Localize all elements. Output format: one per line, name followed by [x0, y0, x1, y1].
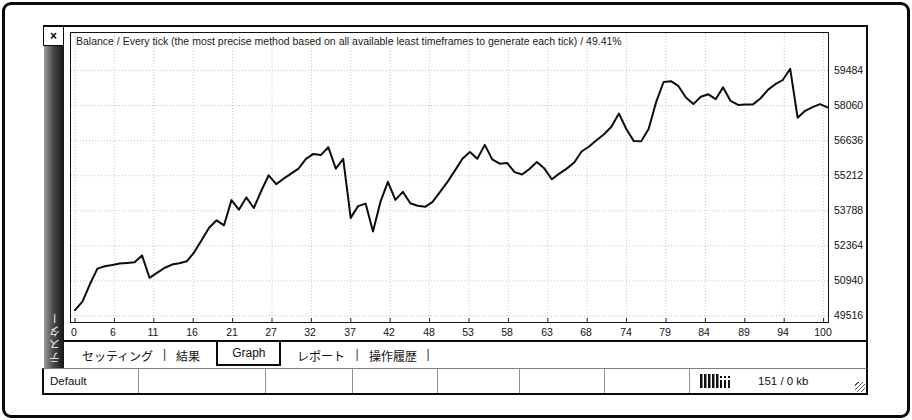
x-tick-label: 11: [148, 326, 159, 338]
chart-title: Balance / Every tick (the most precise m…: [76, 35, 622, 47]
resize-grip[interactable]: [855, 382, 865, 392]
tester-sidebar-label: テスター: [47, 311, 63, 363]
x-tick-label: 37: [344, 326, 356, 338]
tab-graph[interactable]: Graph: [216, 342, 281, 366]
y-axis-labels: 5948458060566365521253788523645094049516: [834, 32, 876, 323]
status-spacer: [809, 369, 855, 393]
y-tick-label: 52364: [834, 239, 863, 251]
x-tick-label: 68: [580, 326, 592, 338]
chart-panel: Balance / Every tick (the most precise m…: [70, 32, 829, 323]
x-tick-label: 27: [265, 326, 277, 338]
window-top-border: [43, 25, 868, 27]
x-tick-label: 79: [659, 326, 671, 338]
status-cell: [520, 369, 605, 393]
status-cell: [353, 369, 438, 393]
status-bar: Default 151 / 0 kb: [42, 368, 868, 395]
x-tick-label: 94: [777, 326, 789, 338]
tab-separator: |: [425, 342, 432, 361]
tab-report[interactable]: レポート: [289, 342, 353, 364]
x-tick-label: 6: [110, 326, 116, 338]
y-tick-label: 59484: [834, 64, 863, 76]
traffic-bars-icon: [700, 374, 732, 388]
x-tick-label: 0: [71, 326, 77, 338]
x-tick-label: 84: [698, 326, 710, 338]
traffic-label: 151 / 0 kb: [758, 375, 809, 387]
x-tick-label: 89: [738, 326, 750, 338]
tab-separator: |: [161, 342, 168, 361]
x-tick-label: 42: [383, 326, 395, 338]
y-tick-label: 53788: [834, 204, 863, 216]
balance-chart-svg: [71, 33, 828, 322]
tab-settings[interactable]: セッティング: [74, 342, 161, 364]
x-tick-label: 21: [226, 326, 238, 338]
tab-separator: |: [353, 342, 360, 361]
close-icon: ×: [50, 30, 57, 42]
status-cell: [605, 369, 690, 393]
x-axis-labels: 061116212732374248535863687479848994100: [70, 326, 829, 339]
status-cell: [266, 369, 353, 393]
x-tick-label: 63: [541, 326, 553, 338]
status-cell: [438, 369, 520, 393]
close-button[interactable]: ×: [43, 26, 64, 46]
status-preset-label: Default: [50, 375, 86, 387]
y-tick-label: 50940: [834, 274, 863, 286]
x-tick-label: 32: [304, 326, 316, 338]
status-cell: [139, 369, 266, 393]
x-tick-label: 53: [462, 326, 474, 338]
x-tick-label: 58: [501, 326, 513, 338]
tester-sidebar-strip: テスター: [44, 46, 64, 368]
y-tick-label: 55212: [834, 169, 863, 181]
x-tick-label: 74: [620, 326, 632, 338]
x-tick-label: 48: [423, 326, 435, 338]
x-tick-label: 16: [186, 326, 198, 338]
y-tick-label: 49516: [834, 309, 863, 321]
x-tick-label: 100: [814, 326, 832, 338]
y-tick-label: 58060: [834, 99, 863, 111]
status-preset-cell[interactable]: Default: [44, 369, 139, 393]
y-tick-label: 56636: [834, 134, 863, 146]
tab-results[interactable]: 結果: [168, 342, 208, 364]
tab-bar: セッティング|結果Graphレポート|操作履歴|: [64, 340, 866, 368]
tab-journal[interactable]: 操作履歴: [361, 342, 425, 364]
